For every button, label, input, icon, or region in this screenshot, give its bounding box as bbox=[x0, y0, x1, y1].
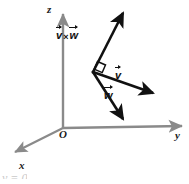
x-axis-label: x bbox=[19, 160, 25, 171]
vector-v-label: v bbox=[115, 66, 121, 82]
vector-origin-vertex bbox=[91, 70, 94, 73]
cross-product-label: v×w bbox=[56, 26, 78, 42]
right-angle-marker-icon bbox=[94, 62, 105, 73]
x-axis bbox=[15, 128, 63, 152]
vector-v-symbol: v bbox=[115, 66, 121, 81]
z-axis-label: z bbox=[47, 4, 51, 15]
vector-diagram-figure: z y x O v×w v w y = 0 bbox=[0, 0, 189, 184]
cross-product-right-symbol: w bbox=[69, 26, 78, 41]
y-axis-label: y bbox=[175, 130, 180, 141]
cross-product-left-symbol: v bbox=[56, 26, 62, 41]
cutoff-footer-text: y = 0 bbox=[2, 172, 27, 179]
vector-w-label: w bbox=[104, 86, 113, 102]
diagram-canvas bbox=[0, 0, 189, 184]
vector-v-arrow bbox=[93, 72, 153, 93]
cross-product-operator: × bbox=[62, 33, 69, 42]
y-axis bbox=[63, 126, 182, 128]
origin-label: O bbox=[59, 129, 67, 140]
vector-w-symbol: w bbox=[104, 86, 113, 101]
